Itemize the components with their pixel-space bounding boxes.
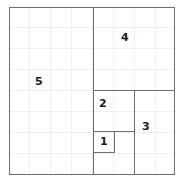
square-2-label: 2 — [99, 98, 107, 109]
square-5 — [9, 7, 94, 175]
square-1-label: 1 — [100, 136, 108, 147]
squared-rectangle-figure: 54231 — [0, 0, 182, 185]
square-4-label: 4 — [121, 32, 129, 43]
square-4 — [93, 7, 175, 91]
square-3-label: 3 — [142, 121, 150, 132]
square-5-label: 5 — [35, 76, 43, 87]
square-3 — [134, 90, 175, 175]
